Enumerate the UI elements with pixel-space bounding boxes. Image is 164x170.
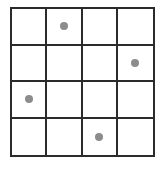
- grid-cell-r2-c1[interactable]: [12, 46, 47, 83]
- grid-cell-r1-c3[interactable]: [83, 9, 118, 46]
- dot-marker-icon: [25, 95, 33, 103]
- grid-cell-r3-c1[interactable]: [12, 82, 47, 119]
- dot-marker-icon: [131, 59, 139, 67]
- grid-cell-r2-c4[interactable]: [118, 46, 153, 83]
- dot-marker-icon: [95, 133, 103, 141]
- grid-cell-r3-c4[interactable]: [118, 82, 153, 119]
- grid-cell-r1-c1[interactable]: [12, 9, 47, 46]
- grid-cell-r4-c4[interactable]: [118, 119, 153, 156]
- grid-cell-r3-c2[interactable]: [47, 82, 82, 119]
- dot-grid-board[interactable]: [10, 7, 155, 157]
- grid-cell-r2-c3[interactable]: [83, 46, 118, 83]
- grid-cell-r4-c2[interactable]: [47, 119, 82, 156]
- dot-marker-icon: [60, 22, 68, 30]
- grid-cell-r2-c2[interactable]: [47, 46, 82, 83]
- grid-cell-r4-c3[interactable]: [83, 119, 118, 156]
- grid-cell-r3-c3[interactable]: [83, 82, 118, 119]
- grid-cell-r1-c4[interactable]: [118, 9, 153, 46]
- grid-cell-r1-c2[interactable]: [47, 9, 82, 46]
- grid-cell-r4-c1[interactable]: [12, 119, 47, 156]
